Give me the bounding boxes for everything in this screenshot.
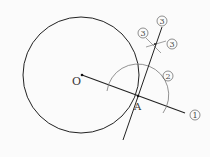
svg-text:1: 1 <box>192 111 197 120</box>
step-label-tangent: 3 <box>157 16 167 26</box>
step-label-cross-right: 3 <box>167 39 177 49</box>
geometry-diagram: O A 1 2 3 3 3 <box>0 0 210 157</box>
svg-text:3: 3 <box>159 17 164 26</box>
diagram-canvas: O A 1 2 3 3 3 <box>0 0 210 157</box>
svg-text:3: 3 <box>140 29 145 38</box>
point-o <box>81 74 84 77</box>
svg-text:3: 3 <box>169 40 174 49</box>
step-label-cross-left: 3 <box>138 28 148 38</box>
tangent-line <box>123 27 162 140</box>
step-label-arc: 2 <box>163 71 173 81</box>
label-o: O <box>72 75 81 88</box>
point-cross <box>154 43 156 45</box>
svg-text:2: 2 <box>165 72 170 81</box>
step-label-ray: 1 <box>190 110 200 120</box>
point-a <box>137 95 139 97</box>
label-a: A <box>133 101 142 112</box>
